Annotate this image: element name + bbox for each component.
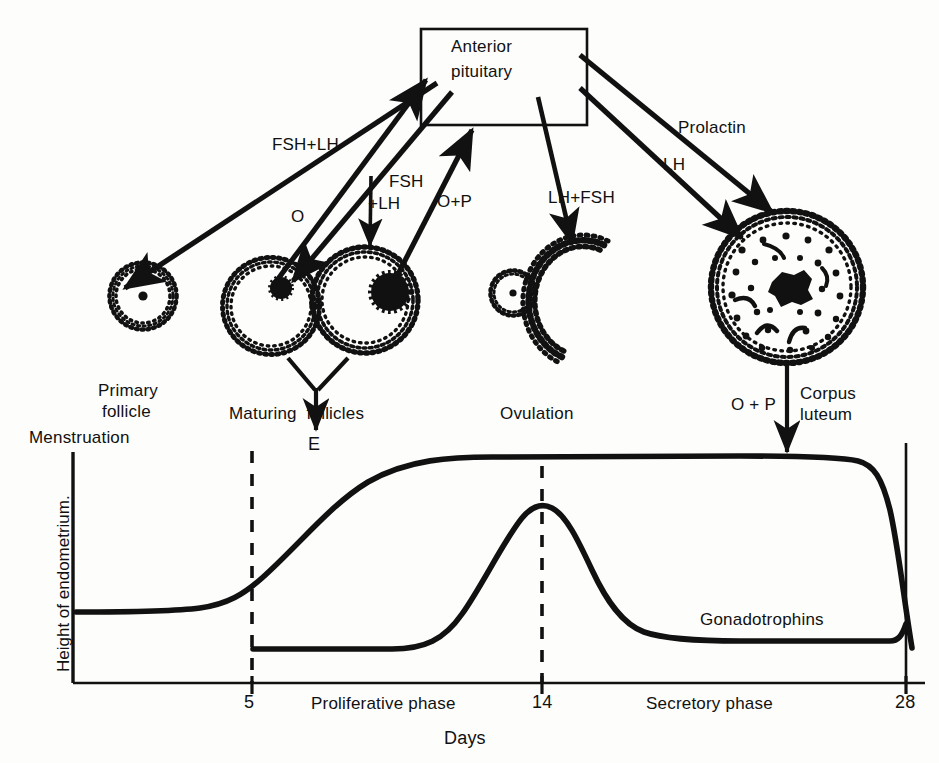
diagram-canvas: Anterior pituitary FSH+LH O FSH +LH O+P … xyxy=(0,0,939,763)
label-corpus-luteum-line-1: Corpus xyxy=(800,384,856,403)
chart-x-axis-label: Days xyxy=(444,728,486,748)
label-o-p-output: O + P xyxy=(731,395,776,414)
label-primary-follicle-line-2: follicle xyxy=(102,402,151,421)
chart-xtick-label-14: 14 xyxy=(532,692,552,712)
label-estrogen-output: E xyxy=(308,434,320,454)
arrow-lh-to-corpus-luteum xyxy=(580,88,742,238)
chart-xtick-label-5: 5 xyxy=(244,692,254,712)
label-ovulation: Ovulation xyxy=(500,404,574,423)
arrow-lh-fsh-to-ovulation xyxy=(538,97,572,243)
chart-xtick-label-28: 28 xyxy=(895,692,915,712)
maturing-follicle-1-illustration xyxy=(223,258,320,355)
chart-y-axis-label: Height of endometrium. xyxy=(54,495,74,672)
label-lh-fsh: LH+FSH xyxy=(548,188,615,207)
label-prolactin: Prolactin xyxy=(678,118,746,137)
pituitary-label-line-2: pituitary xyxy=(451,62,512,81)
label-fsh-lh-stack-line-2: +LH xyxy=(368,194,400,213)
label-fsh-lh-stack-line-1: FSH xyxy=(389,172,424,191)
corpus-luteum-illustration xyxy=(711,211,863,363)
label-maturing-follicles: Maturing follicles xyxy=(229,404,364,423)
label-proliferative-phase: Proliferative phase xyxy=(311,694,456,713)
ruptured-follicle-illustration xyxy=(523,235,608,362)
label-fsh-lh-left: FSH+LH xyxy=(272,135,339,154)
label-lh: LH xyxy=(663,155,685,174)
label-o-feedback: O xyxy=(291,207,304,226)
maturing-follicle-2-illustration xyxy=(312,247,418,353)
label-o-p-feedback: O+P xyxy=(437,192,472,211)
label-gonadotrophins: Gonadotrophins xyxy=(700,610,824,629)
label-secretory-phase: Secretory phase xyxy=(646,694,773,713)
label-corpus-luteum-line-2: luteum xyxy=(800,405,852,424)
primary-follicle-illustration xyxy=(110,263,177,330)
pituitary-label-line-1: Anterior xyxy=(451,37,512,56)
label-primary-follicle-line-1: Primary xyxy=(98,381,158,400)
label-menstruation: Menstruation xyxy=(29,428,130,447)
